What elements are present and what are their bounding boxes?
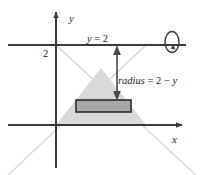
figure-canvas: y x 2 y = 2 radius = 2 − y — [0, 0, 200, 175]
math-figure: y x 2 y = 2 radius = 2 − y — [0, 0, 200, 175]
x-axis-label: x — [171, 133, 177, 145]
y-tick-label-2: 2 — [43, 48, 48, 59]
radius-arrow-head-up — [113, 45, 121, 55]
radius-label: radius = 2 − y — [118, 75, 177, 86]
radius-arrow — [113, 45, 121, 101]
y-axis-label: y — [68, 12, 74, 24]
axis-of-revolution-label: y = 2 — [86, 33, 108, 44]
revolution-ellipse — [165, 32, 179, 53]
representative-disk — [76, 100, 131, 112]
revolution-arrow-icon — [165, 32, 179, 53]
